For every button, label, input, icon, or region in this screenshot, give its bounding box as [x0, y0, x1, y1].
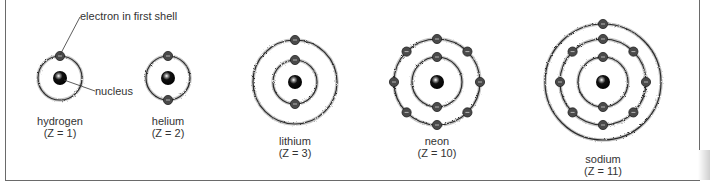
atoms-layer	[38, 19, 661, 140]
electron	[555, 77, 564, 86]
electron	[598, 52, 607, 61]
electron	[163, 95, 172, 104]
electron-annotation: electron in first shell	[80, 10, 177, 22]
electron	[598, 102, 607, 111]
electron	[475, 77, 484, 86]
electron-leader-line	[60, 17, 80, 55]
electron	[163, 51, 172, 60]
atom-label-hydrogen: hydrogen (Z = 1)	[30, 115, 90, 139]
electron	[432, 120, 441, 129]
atom-name: helium	[138, 115, 198, 127]
atom-name: lithium	[265, 135, 325, 147]
electron	[290, 99, 299, 108]
atomic-number: (Z = 1)	[30, 127, 90, 139]
atom-helium	[146, 51, 190, 104]
electron	[598, 120, 607, 129]
atom-name: neon	[407, 135, 467, 147]
electron	[402, 47, 411, 56]
nucleus	[288, 75, 302, 89]
electron	[463, 108, 472, 117]
electron	[432, 102, 441, 111]
electron	[290, 35, 299, 44]
atomic-number: (Z = 2)	[138, 127, 198, 139]
electron	[389, 77, 398, 86]
atom-hydrogen	[38, 51, 82, 100]
electron	[629, 47, 638, 56]
electron	[432, 34, 441, 43]
atomic-number: (Z = 11)	[573, 165, 633, 177]
electron	[402, 108, 411, 117]
atom-name: hydrogen	[30, 115, 90, 127]
electron	[629, 108, 638, 117]
nucleus	[161, 71, 175, 85]
atom-label-sodium: sodium (Z = 11)	[573, 153, 633, 177]
atom-neon	[389, 34, 484, 129]
electron	[432, 52, 441, 61]
electron	[598, 34, 607, 43]
atom-label-helium: helium (Z = 2)	[138, 115, 198, 139]
nucleus	[430, 75, 444, 89]
atom-label-neon: neon (Z = 10)	[407, 135, 467, 159]
electron	[568, 108, 577, 117]
atom-sodium	[545, 19, 661, 140]
atomic-number: (Z = 10)	[407, 147, 467, 159]
electron	[463, 47, 472, 56]
electron	[568, 47, 577, 56]
nucleus	[596, 75, 610, 89]
nucleus	[53, 71, 67, 85]
electron	[55, 51, 64, 60]
atom-name: sodium	[573, 153, 633, 165]
electron	[598, 19, 607, 28]
nucleus-annotation: nucleus	[95, 85, 133, 97]
atom-lithium	[253, 35, 337, 124]
electron	[290, 55, 299, 64]
electron	[641, 77, 650, 86]
atom-label-lithium: lithium (Z = 3)	[265, 135, 325, 159]
atomic-number: (Z = 3)	[265, 147, 325, 159]
